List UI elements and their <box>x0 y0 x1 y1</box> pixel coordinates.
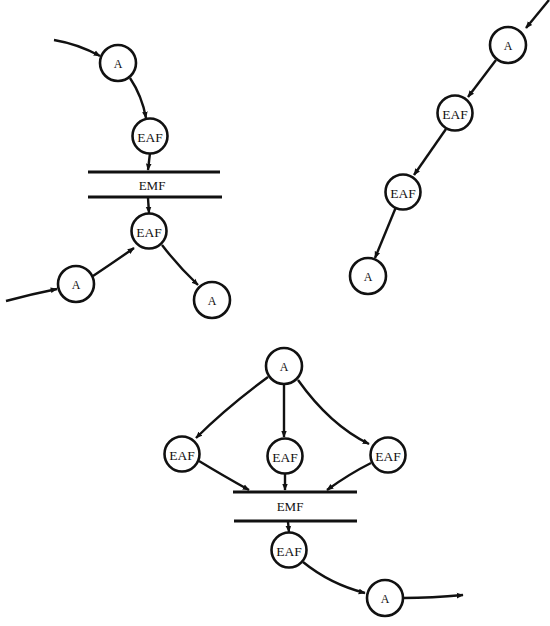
node-a: A <box>194 282 230 318</box>
emf-bar: EMF <box>88 172 222 197</box>
node-eaf: EAF <box>438 96 473 131</box>
panel-top-right: A EAF EAF A <box>350 0 549 294</box>
edge-tr-eaf2-to-tr-a2 <box>375 207 396 258</box>
svg-text:EAF: EAF <box>442 107 468 122</box>
svg-text:A: A <box>72 278 81 292</box>
edge-tl-eaf1-to-emf <box>148 153 150 170</box>
node-a: A <box>58 266 94 302</box>
node-eaf: EAF <box>268 439 303 474</box>
svg-text:EAF: EAF <box>136 225 162 240</box>
svg-text:A: A <box>208 294 217 308</box>
svg-text:EAF: EAF <box>169 448 195 463</box>
edge-eaf-out-to-b-a2 <box>303 562 365 593</box>
edge-tl-a1-to-tl-eaf1 <box>130 78 146 118</box>
edge-eaf-left-to-emf <box>199 461 249 490</box>
edge-in-to-tl-a1 <box>54 40 100 56</box>
svg-text:A: A <box>381 592 390 606</box>
node-a: A <box>350 258 386 294</box>
emf-label: EMF <box>139 178 166 193</box>
panel-top-left: EMF A EAF EAF A A <box>6 40 230 318</box>
node-a: A <box>367 580 403 616</box>
svg-text:EAF: EAF <box>375 449 401 464</box>
node-eaf: EAF <box>386 175 421 210</box>
edge-tr-eaf1-to-tr-eaf2 <box>414 129 446 175</box>
emf-bar: EMF <box>233 492 357 521</box>
svg-text:EAF: EAF <box>272 450 298 465</box>
emf-label: EMF <box>277 499 304 514</box>
svg-text:EAF: EAF <box>276 544 302 559</box>
svg-text:EAF: EAF <box>390 186 416 201</box>
node-eaf: EAF <box>272 533 307 568</box>
edge-emf-to-tl-eaf2 <box>148 198 149 213</box>
node-a: A <box>490 27 526 63</box>
edge-b-a1-to-eaf-left <box>196 377 268 438</box>
edge-tl-a2-to-tl-eaf2 <box>93 248 134 276</box>
edge-eaf-right-to-emf <box>327 463 371 490</box>
svg-text:A: A <box>364 270 373 284</box>
edge-tr-a1-to-tr-eaf1 <box>468 60 496 97</box>
node-eaf: EAF <box>133 119 168 154</box>
edge-b-a2-to-out <box>403 595 463 598</box>
svg-text:A: A <box>114 57 123 71</box>
node-eaf: EAF <box>371 438 406 473</box>
svg-text:A: A <box>280 360 289 374</box>
edge-emf-to-eaf-out <box>288 522 289 532</box>
edge-b-a1-to-eaf-right <box>298 380 369 444</box>
svg-text:A: A <box>504 39 513 53</box>
node-eaf: EAF <box>165 437 200 472</box>
edge-tl-eaf2-to-tl-a3 <box>162 245 198 285</box>
edge-in-to-tl-a2 <box>6 289 57 301</box>
diagram-canvas: EMF A EAF EAF A A A <box>0 0 550 626</box>
panel-bottom: EMF A EAF EAF EAF EAF A <box>165 348 464 616</box>
svg-text:EAF: EAF <box>137 130 163 145</box>
node-a: A <box>100 45 136 81</box>
node-eaf: EAF <box>132 214 167 249</box>
node-a: A <box>266 348 302 384</box>
edge-in-to-tr-a1 <box>526 0 549 28</box>
